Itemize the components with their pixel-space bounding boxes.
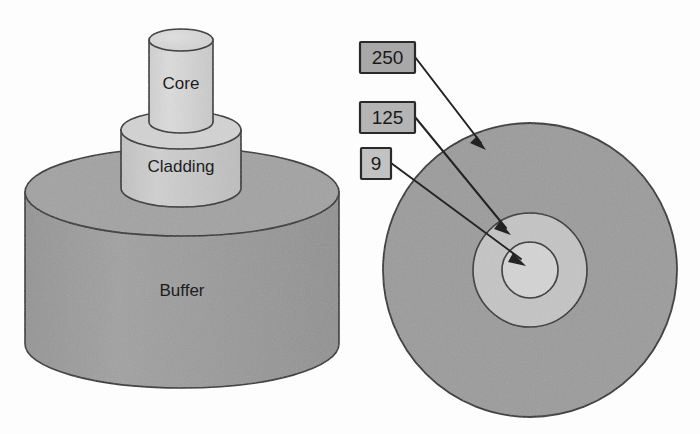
diagram-canvas: Core Cladding Buffer 250 xyxy=(0,0,700,434)
callout-9[interactable]: 9 xyxy=(361,148,391,179)
callout-125[interactable]: 125 xyxy=(360,102,415,133)
fiber-diagram-figure: Core Cladding Buffer 250 xyxy=(0,0,700,434)
cladding-label: Cladding xyxy=(147,157,214,176)
callout-125-value: 125 xyxy=(372,107,404,128)
cross-section-diagram: 250 125 9 xyxy=(360,42,677,417)
core-label: Core xyxy=(163,74,200,93)
callout-250-value: 250 xyxy=(372,47,404,68)
buffer-label: Buffer xyxy=(159,281,204,300)
callout-250[interactable]: 250 xyxy=(360,42,415,73)
callout-9-value: 9 xyxy=(371,153,382,174)
core-top-face xyxy=(149,29,213,51)
